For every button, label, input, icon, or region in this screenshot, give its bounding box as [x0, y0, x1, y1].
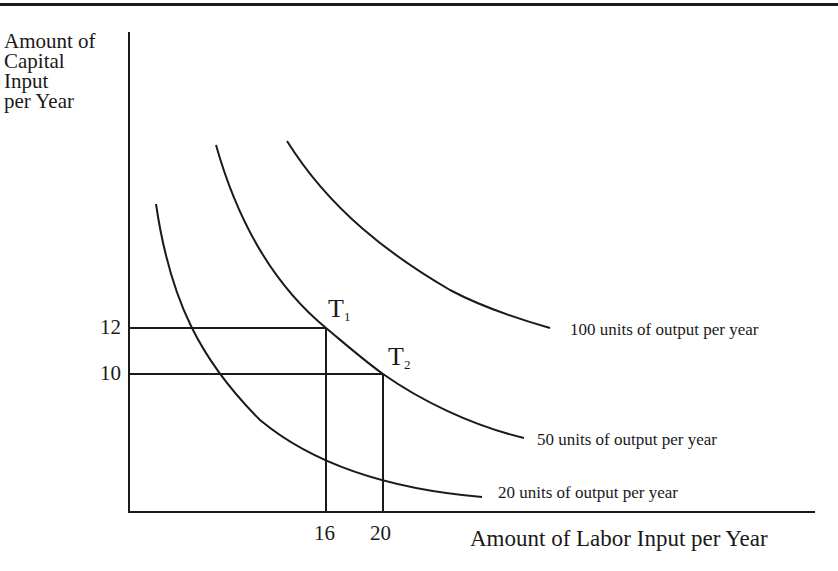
point-label-t2-main: T: [388, 342, 404, 371]
chart-plot: [0, 0, 838, 571]
point-label-t1-main: T: [328, 294, 344, 323]
x-tick-20: 20: [370, 522, 391, 544]
curve-label-20: 20 units of output per year: [498, 483, 678, 503]
x-tick-16: 16: [314, 522, 335, 544]
isoquant-100: [287, 141, 550, 328]
curve-label-50: 50 units of output per year: [537, 430, 717, 450]
y-tick-10: 10: [100, 362, 121, 384]
point-label-t2: T2: [388, 344, 410, 378]
isoquant-20: [156, 204, 482, 497]
y-tick-12: 12: [100, 316, 121, 338]
curve-label-100: 100 units of output per year: [570, 320, 758, 340]
point-label-t1: T1: [328, 296, 350, 330]
isoquant-50: [216, 145, 524, 438]
point-label-t1-sub: 1: [344, 309, 351, 324]
point-label-t2-sub: 2: [404, 357, 411, 372]
x-axis-label: Amount of Labor Input per Year: [470, 526, 768, 552]
